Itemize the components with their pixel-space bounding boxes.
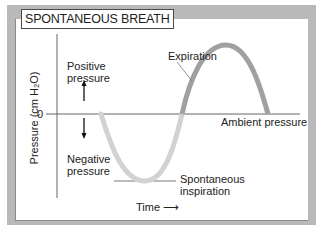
spontaneous-inspiration-label: Spontaneous inspiration (180, 173, 245, 197)
zero-tick-label: 0 (37, 108, 43, 120)
ambient-pressure-label: Ambient pressure (221, 116, 307, 128)
inspiration-curve (101, 114, 182, 181)
right-arrow-icon: ⟶ (163, 201, 179, 213)
positive-pressure-label: Positive pressure (67, 60, 110, 84)
negative-pressure-label: Negative pressure (67, 153, 110, 177)
expiration-leader-line (177, 62, 192, 81)
expiration-label: Expiration (168, 50, 217, 62)
x-axis-label: Time ⟶ (136, 201, 179, 213)
